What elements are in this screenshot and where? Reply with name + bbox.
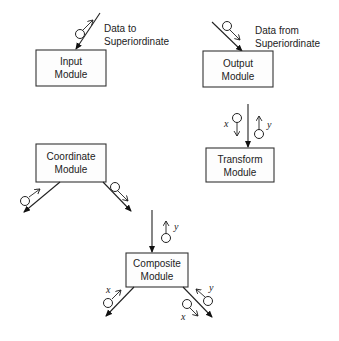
- output-annotation-2: Superiordinate: [255, 38, 320, 49]
- data-couple-icon: [204, 297, 213, 306]
- data-couple-icon: [76, 30, 85, 39]
- data-couple-icon: [255, 130, 264, 139]
- coordinate-module-label-2: Module: [55, 164, 88, 175]
- composite-couple-right-y: y: [208, 282, 214, 293]
- output-module-label-1: Output: [223, 58, 253, 69]
- data-couple-icon: [162, 234, 171, 243]
- output-annotation-1: Data from: [255, 25, 299, 36]
- transform-module-label-2: Module: [224, 167, 257, 178]
- transform-module-label-1: Transform: [217, 154, 262, 165]
- couple-arrow-icon: [29, 189, 40, 197]
- coordinate-module-group: Coordinate Module: [21, 144, 132, 212]
- couple-arrow-icon: [190, 308, 198, 316]
- coordinate-module-label-1: Coordinate: [47, 151, 96, 162]
- data-couple-icon: [104, 299, 113, 308]
- data-couple-icon: [233, 114, 242, 123]
- data-couple-icon: [223, 22, 232, 31]
- composite-couple-top-y: y: [173, 221, 179, 232]
- output-module-label-2: Module: [222, 71, 255, 82]
- output-module-group: Data from Superiordinate Output Module: [203, 22, 320, 88]
- transform-couple-y: y: [266, 119, 272, 130]
- data-couple-icon: [21, 197, 30, 206]
- couple-arrow-icon: [230, 30, 240, 40]
- transform-module-group: x y Transform Module: [206, 104, 274, 182]
- data-couple-icon: [183, 300, 192, 309]
- structure-chart-diagram: Data to Superiordinate Input Module Data…: [0, 0, 339, 341]
- coordinate-module-box: [36, 144, 106, 182]
- input-module-group: Data to Superiordinate Input Module: [36, 13, 169, 86]
- input-module-label-1: Input: [60, 56, 82, 67]
- composite-module-label-2: Module: [141, 271, 174, 282]
- composite-couple-left-x: x: [105, 284, 111, 295]
- input-annotation-1: Data to: [104, 23, 137, 34]
- couple-arrow-icon: [112, 290, 121, 299]
- data-couple-icon: [111, 183, 120, 192]
- couple-arrow-icon: [196, 289, 205, 297]
- composite-couple-right-x: x: [180, 311, 186, 322]
- composite-module-label-1: Composite: [133, 258, 181, 269]
- input-module-label-2: Module: [55, 69, 88, 80]
- composite-module-group: y Composite Module x x y: [104, 210, 215, 322]
- transform-couple-x: x: [223, 118, 229, 129]
- input-annotation-2: Superiordinate: [104, 36, 169, 47]
